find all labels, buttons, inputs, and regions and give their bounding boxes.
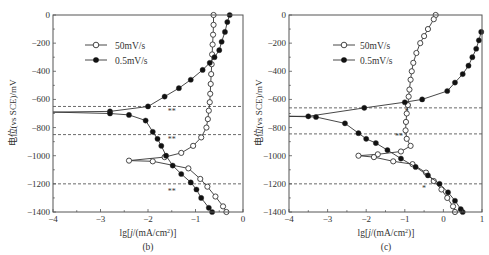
polarization-figure: ******−4−3−2−100−200−400−600−800−1000−12… — [0, 0, 489, 255]
significance-annotation: ** — [168, 135, 176, 144]
open-circle-marker-icon — [179, 150, 184, 155]
filled-circle-marker-icon — [176, 86, 181, 91]
filled-circle-marker-icon — [445, 190, 450, 195]
filled-circle-marker-icon — [356, 131, 361, 136]
filled-circle-marker-icon — [163, 153, 168, 158]
filled-circle-marker-icon — [199, 195, 204, 200]
y-tick-label: −1200 — [27, 179, 51, 189]
open-circle-marker-icon — [204, 125, 209, 130]
filled-circle-marker-icon — [159, 143, 164, 148]
y-tick-label: −400 — [31, 66, 50, 76]
open-circle-marker-icon — [409, 69, 414, 74]
open-circle-marker-icon — [398, 149, 403, 154]
filled-circle-marker-icon — [162, 94, 167, 99]
open-circle-marker-icon — [341, 42, 347, 48]
significance-annotation: ** — [168, 107, 176, 116]
filled-circle-marker-icon — [476, 38, 481, 43]
open-circle-marker-icon — [210, 42, 215, 47]
open-circle-marker-icon — [422, 34, 427, 39]
filled-circle-marker-icon — [460, 72, 465, 77]
open-circle-marker-icon — [356, 153, 361, 158]
x-axis-label-b: lg[j/(mA/cm2)] — [120, 228, 177, 239]
open-circle-marker-icon — [407, 87, 412, 92]
open-circle-marker-icon — [198, 176, 203, 181]
filled-circle-marker-icon — [212, 55, 217, 60]
filled-circle-marker-icon — [402, 100, 407, 105]
filled-circle-marker-icon — [219, 39, 224, 44]
filled-circle-marker-icon — [225, 19, 230, 24]
y-tick-label: −200 — [31, 38, 50, 48]
open-circle-marker-icon — [408, 77, 413, 82]
filled-circle-marker-icon — [143, 118, 148, 123]
open-circle-marker-icon — [208, 91, 213, 96]
filled-circle-marker-icon — [474, 46, 479, 51]
y-axis-label-b: 电位(vs SCE)/mV — [7, 79, 18, 146]
open-circle-marker-icon — [418, 41, 423, 46]
x-axis-label-c: lg[j/(mA/cm2)] — [358, 228, 415, 239]
x-tick-label: 0 — [241, 214, 246, 224]
open-circle-marker-icon — [406, 94, 411, 99]
y-tick-label: −400 — [267, 66, 286, 76]
filled-circle-marker-icon — [479, 29, 484, 34]
open-circle-marker-icon — [205, 117, 210, 122]
y-axis-label-c: 电位(vs SCE)/mV — [253, 79, 264, 146]
open-circle-marker-icon — [150, 159, 155, 164]
filled-circle-marker-icon — [466, 63, 471, 68]
filled-circle-marker-icon — [107, 111, 112, 116]
filled-circle-marker-icon — [126, 112, 131, 117]
filled-circle-marker-icon — [145, 104, 150, 109]
filled-circle-marker-icon — [313, 114, 318, 119]
legend-item-05mvs: 0.5mV/s — [360, 56, 393, 66]
filled-circle-marker-icon — [179, 171, 184, 176]
open-circle-marker-icon — [93, 42, 99, 48]
filled-circle-marker-icon — [170, 163, 175, 168]
x-tick-label: −3 — [96, 214, 106, 224]
significance-annotation: ** — [168, 187, 176, 196]
filled-circle-marker-icon — [452, 198, 457, 203]
filled-circle-marker-icon — [200, 67, 205, 72]
open-circle-marker-icon — [220, 204, 225, 209]
filled-circle-marker-icon — [452, 80, 457, 85]
y-tick-label: −200 — [267, 38, 286, 48]
legend-item-50mvs: 50mV/s — [115, 41, 145, 51]
x-tick-label: −3 — [323, 214, 333, 224]
x-tick-label: −1 — [400, 214, 410, 224]
x-tick-label: −2 — [361, 214, 371, 224]
open-circle-marker-icon — [450, 204, 455, 209]
y-tick-label: −1200 — [263, 179, 287, 189]
filled-circle-marker-icon — [207, 60, 212, 65]
y-tick-label: 0 — [282, 10, 287, 20]
open-circle-marker-icon — [206, 108, 211, 113]
y-tick-label: −800 — [31, 123, 50, 133]
open-circle-marker-icon — [391, 159, 396, 164]
open-circle-marker-icon — [403, 128, 408, 133]
filled-circle-marker-icon — [194, 187, 199, 192]
open-circle-marker-icon — [408, 143, 413, 148]
open-circle-marker-icon — [403, 119, 408, 124]
open-circle-marker-icon — [191, 143, 196, 148]
open-circle-marker-icon — [371, 155, 376, 160]
y-tick-label: −1000 — [27, 151, 51, 161]
significance-annotation: * — [422, 184, 426, 193]
open-circle-marker-icon — [207, 100, 212, 105]
filled-circle-marker-icon — [342, 121, 347, 126]
legend-item-50mvs: 50mV/s — [360, 41, 390, 51]
filled-circle-marker-icon — [413, 164, 418, 169]
open-circle-marker-icon — [209, 72, 214, 77]
filled-circle-marker-icon — [217, 48, 222, 53]
filled-circle-marker-icon — [425, 173, 430, 178]
x-tick-label: 1 — [480, 214, 485, 224]
filled-circle-marker-icon — [362, 105, 367, 110]
filled-circle-marker-icon — [222, 29, 227, 34]
x-tick-label: −1 — [191, 214, 201, 224]
open-circle-marker-icon — [411, 60, 416, 65]
filled-circle-marker-icon — [93, 57, 99, 63]
y-tick-label: 0 — [46, 10, 51, 20]
filled-circle-marker-icon — [373, 140, 378, 145]
significance-annotation: ** — [395, 132, 403, 141]
filled-circle-marker-icon — [155, 136, 160, 141]
legend-b: 50mV/s 0.5mV/s — [85, 41, 148, 66]
legend-item-05mvs: 0.5mV/s — [115, 56, 148, 66]
open-circle-marker-icon — [208, 81, 213, 86]
significance-annotation: * — [405, 107, 409, 116]
